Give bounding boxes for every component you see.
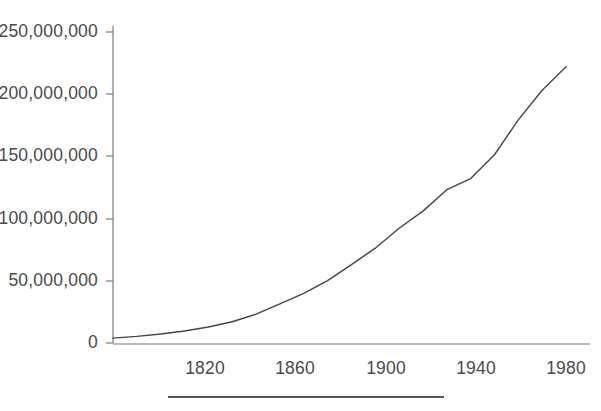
y-tick-label: 200,000,000 <box>0 85 98 103</box>
y-tick-label: 100,000,000 <box>0 210 98 228</box>
population-line-series <box>113 67 566 338</box>
y-tick-label: 0 <box>88 334 98 352</box>
x-tick-label: 1940 <box>446 360 506 378</box>
population-growth-chart: 250,000,000 200,000,000 150,000,000 100,… <box>0 0 601 411</box>
y-tick-label: 50,000,000 <box>8 272 98 290</box>
x-tick-label: 1860 <box>265 360 325 378</box>
y-tick-label: 250,000,000 <box>0 23 98 41</box>
y-tick-label: 150,000,000 <box>0 147 98 165</box>
x-tick-label: 1820 <box>175 360 235 378</box>
x-tick-label: 1980 <box>536 360 596 378</box>
y-axis-ticks <box>106 32 113 343</box>
caption-horizontal-rule <box>168 396 444 398</box>
x-tick-label: 1900 <box>356 360 416 378</box>
